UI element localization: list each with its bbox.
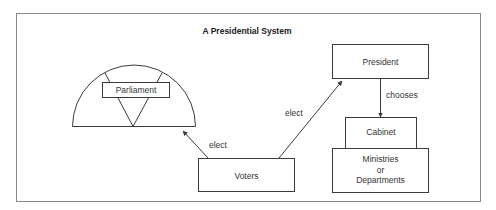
- parliament-inner-line-left: [105, 73, 133, 127]
- arrow-voters-to-parliament: [183, 131, 208, 158]
- presidential-system-diagram: A Presidential System Parliament Voters …: [0, 0, 496, 210]
- voters-label: Voters: [234, 171, 258, 181]
- president-label: President: [363, 57, 400, 67]
- ministries-label-line3: Departments: [356, 175, 405, 185]
- parliament-node: Parliament: [73, 65, 196, 126]
- cabinet-label: Cabinet: [366, 127, 396, 137]
- parliament-inner-line-right: [133, 73, 162, 127]
- president-node: President: [333, 45, 429, 79]
- ministries-label-line1: Ministries: [363, 154, 399, 164]
- diagram-title: A Presidential System: [203, 26, 292, 36]
- parliament-label: Parliament: [116, 85, 157, 95]
- arrow-voters-to-president: [279, 81, 342, 158]
- ministries-node: Ministries or Departments: [333, 149, 429, 193]
- edge-president-to-cabinet: chooses: [381, 79, 418, 117]
- edge-label-voters-parliament: elect: [209, 140, 228, 150]
- edge-voters-to-parliament: elect: [183, 131, 228, 158]
- cabinet-node: Cabinet: [346, 118, 417, 149]
- voters-node: Voters: [199, 159, 295, 192]
- ministries-label-line2: or: [377, 165, 385, 175]
- edge-voters-to-president: elect: [279, 81, 342, 158]
- edge-label-voters-president: elect: [285, 108, 304, 118]
- edge-label-president-cabinet: chooses: [386, 90, 418, 100]
